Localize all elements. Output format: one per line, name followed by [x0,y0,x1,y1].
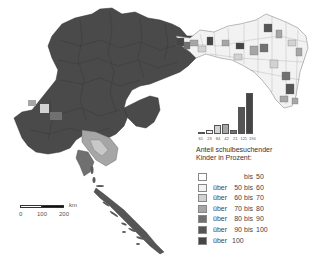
scale-bar-segment-dark [42,205,64,208]
histogram-label: 23 [206,136,214,142]
histogram-bar [238,107,245,134]
histogram [198,86,254,134]
scale-unit: km [69,202,77,208]
histogram-bar [206,130,213,134]
scale-tick-100: 100 [37,211,47,217]
map-region-light-west [28,100,36,106]
histogram-bar [246,93,253,134]
choropleth-map [0,0,318,260]
legend-swatch [198,237,207,245]
histogram-label: 190 [249,136,257,142]
map-region-mid-west [50,112,62,120]
histogram-bar [214,125,221,134]
histogram-bar [222,124,229,134]
histogram-bar [198,132,205,134]
histogram-bar [230,130,237,134]
legend-title: Anteil schulbesuchender Kinder in Prozen… [196,146,272,162]
map-region-light-west-2 [40,104,49,113]
histogram-label: 121 [240,136,248,142]
histogram-label: 42 [223,136,231,142]
histogram-label: 21 [231,136,239,142]
legend-swatch [198,205,207,213]
legend-swatch [198,184,207,192]
legend-swatch [198,215,207,223]
histogram-labels: 61 23 84 42 21 121 190 [197,136,257,142]
legend-swatch [198,173,207,181]
legend-swatch [198,226,207,234]
scale-tick-200: 200 [59,211,69,217]
legend-swatch [198,194,207,202]
scale-bar-segment-light [20,205,42,208]
histogram-label: 84 [214,136,222,142]
scale-tick-0: 0 [19,211,22,217]
histogram-label: 61 [197,136,205,142]
